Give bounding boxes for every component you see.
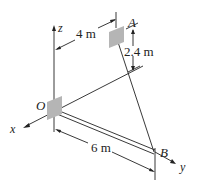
diagram-lines bbox=[0, 0, 199, 192]
point-b-label: B bbox=[160, 146, 168, 159]
y-arrowhead bbox=[170, 159, 176, 164]
z-arrowhead bbox=[52, 25, 56, 31]
point-o-label: O bbox=[36, 99, 45, 112]
dim-4m-arrow-left bbox=[55, 46, 61, 50]
statics-diagram: z x y O A B 4 m 2.4 m 6 m bbox=[0, 0, 199, 192]
point-a-label: A bbox=[128, 16, 136, 29]
dim-6m-arrow-right bbox=[149, 168, 155, 172]
dim-6m-2 bbox=[112, 152, 153, 171]
y-axis-label: y bbox=[180, 161, 185, 173]
x-axis bbox=[26, 66, 143, 126]
plate-o bbox=[47, 96, 62, 120]
dim-4m-arrow-right bbox=[110, 19, 116, 23]
dim-4m-label: 4 m bbox=[76, 27, 96, 40]
dim-6m-arrow-left bbox=[55, 129, 61, 133]
plate-a bbox=[109, 26, 124, 48]
x-axis-label: x bbox=[10, 123, 15, 135]
z-axis-label: z bbox=[58, 22, 63, 34]
dim-24m-label: 2.4 m bbox=[124, 45, 154, 58]
x-arrowhead bbox=[23, 123, 30, 128]
dim-6m-1 bbox=[57, 130, 88, 143]
dim-6m-label: 6 m bbox=[91, 141, 111, 154]
